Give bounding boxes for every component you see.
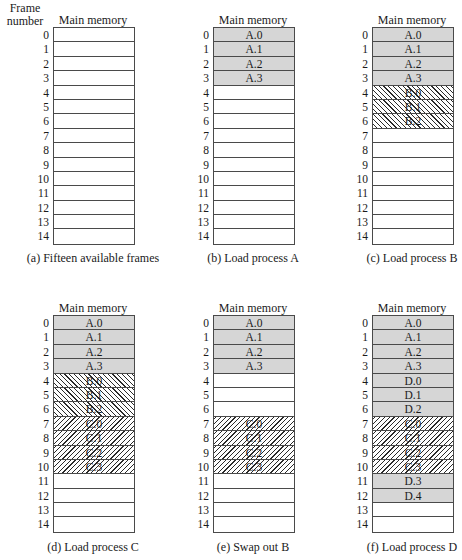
- frame-cell-empty: [373, 172, 453, 185]
- panel-caption-f: (f) Load process D: [332, 540, 462, 554]
- frame-number: 0: [348, 28, 368, 42]
- frame-number: 0: [189, 316, 209, 330]
- frame-row: 8C.1: [373, 431, 453, 445]
- page-label: B.0: [85, 376, 103, 387]
- frame-cell-b-1: B.1: [54, 388, 134, 401]
- frame-cell-c-0: C.0: [373, 417, 453, 430]
- page-label: C.3: [404, 462, 422, 473]
- frame-row: 7: [54, 129, 134, 143]
- frame-number: 9: [348, 446, 368, 460]
- frame-number: 0: [189, 28, 209, 42]
- frame-number: 5: [29, 100, 49, 114]
- frame-cell-empty: [373, 503, 453, 516]
- page-label: A.0: [404, 317, 423, 329]
- frame-number: 1: [29, 42, 49, 56]
- frame-number: 11: [189, 474, 209, 488]
- frame-row: 0: [54, 28, 134, 42]
- frame-cell-empty: [54, 100, 134, 113]
- frame-number: 11: [29, 474, 49, 488]
- frame-cell-d-0: D.0: [373, 374, 453, 387]
- frame-row: 1A.1: [54, 330, 134, 344]
- frame-number: 3: [348, 71, 368, 85]
- panel-title-e: Main memory: [203, 301, 303, 315]
- frame-cell-b-2: B.2: [54, 402, 134, 415]
- frame-number: 3: [189, 359, 209, 373]
- page-label: A.3: [245, 72, 264, 84]
- frame-row: 7C.0: [54, 417, 134, 431]
- frame-cell-b-1: B.1: [373, 100, 453, 113]
- frame-row: 4D.0: [373, 374, 453, 388]
- frame-cell-c-0: C.0: [54, 417, 134, 430]
- frame-cell-empty: [54, 129, 134, 142]
- frame-cell-empty: [214, 388, 294, 401]
- frame-cell-b-2: B.2: [373, 114, 453, 127]
- frame-number: 14: [29, 229, 49, 243]
- page-label: A.3: [404, 360, 423, 372]
- frame-row: 3A.3: [214, 71, 294, 85]
- frame-row: 10C.3: [54, 460, 134, 474]
- frame-cell-empty: [54, 503, 134, 516]
- frame-row: 0A.0: [214, 28, 294, 42]
- frame-row: 9C.2: [214, 446, 294, 460]
- frame-number: 9: [189, 158, 209, 172]
- frame-cell-empty: [373, 143, 453, 156]
- frame-row: 2A.2: [214, 57, 294, 71]
- frame-cell-a-3: A.3: [214, 359, 294, 372]
- page-label: A.2: [404, 58, 423, 70]
- frame-row: 2A.2: [373, 345, 453, 359]
- frame-number: 5: [348, 388, 368, 402]
- frame-row: 13: [373, 215, 453, 229]
- page-label: D.4: [404, 490, 423, 502]
- frame-cell-empty: [54, 57, 134, 70]
- frame-number: 13: [189, 215, 209, 229]
- frame-number: 13: [348, 215, 368, 229]
- frame-row: 9: [373, 158, 453, 172]
- frame-row: 5D.1: [373, 388, 453, 402]
- frame-row: 12: [54, 201, 134, 215]
- frame-number: 10: [189, 172, 209, 186]
- frame-row: 1A.1: [373, 42, 453, 56]
- frame-row: 3A.3: [214, 359, 294, 373]
- page-label: D.2: [404, 403, 423, 415]
- frame-row: 11: [214, 474, 294, 488]
- page-label: C.0: [85, 419, 103, 430]
- frame-number: 4: [348, 86, 368, 100]
- frame-number: 12: [29, 201, 49, 215]
- frame-number: 4: [189, 86, 209, 100]
- frame-row: 4: [54, 86, 134, 100]
- frame-number: 10: [189, 460, 209, 474]
- frame-row: 9C.2: [373, 446, 453, 460]
- frame-number: 14: [348, 229, 368, 243]
- frame-cell-empty: [373, 229, 453, 243]
- frame-row: 12D.4: [373, 489, 453, 503]
- page-label: C.1: [245, 433, 263, 444]
- frame-cell-empty: [214, 474, 294, 487]
- panel-title-f: Main memory: [362, 301, 462, 315]
- frame-cell-empty: [214, 114, 294, 127]
- frame-number: 11: [29, 186, 49, 200]
- frame-row: 12: [54, 489, 134, 503]
- page-label: B.2: [404, 116, 422, 127]
- frame-row: 9C.2: [54, 446, 134, 460]
- panel-caption-b: (b) Load process A: [173, 251, 333, 265]
- page-label: D.3: [404, 475, 423, 487]
- page-label: B.2: [85, 404, 103, 415]
- frame-row: 7: [214, 129, 294, 143]
- frame-number: 12: [348, 201, 368, 215]
- panel-title-b: Main memory: [203, 13, 303, 27]
- page-label: A.3: [85, 360, 104, 372]
- frame-cell-a-3: A.3: [373, 71, 453, 84]
- memory-box-c: 0A.01A.12A.23A.34B.05B.16B.2789101112131…: [372, 27, 454, 245]
- frame-row: 13: [214, 503, 294, 517]
- frame-row: 2A.2: [373, 57, 453, 71]
- page-label: C.3: [85, 462, 103, 473]
- page-label: A.1: [85, 331, 104, 343]
- frame-cell-empty: [54, 229, 134, 243]
- frame-number: 13: [29, 503, 49, 517]
- frame-cell-empty: [54, 114, 134, 127]
- frame-row: 8: [214, 143, 294, 157]
- frame-number: 9: [189, 446, 209, 460]
- frame-row: 12: [373, 201, 453, 215]
- frame-row: 13: [373, 503, 453, 517]
- frame-cell-empty: [373, 215, 453, 228]
